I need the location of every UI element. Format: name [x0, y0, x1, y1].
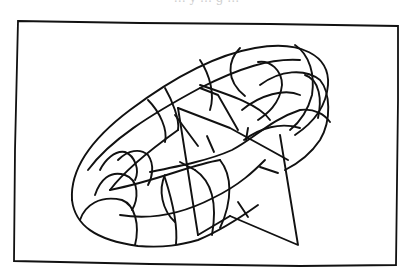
- torus: [72, 46, 330, 247]
- torus-grid-lines: [80, 45, 320, 245]
- torus-illustration: [0, 0, 413, 280]
